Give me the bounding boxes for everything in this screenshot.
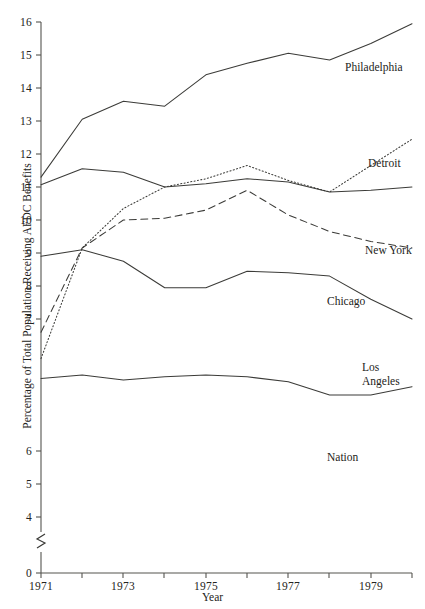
x-tick-marks <box>41 573 412 578</box>
series-line-los-angeles <box>41 250 412 319</box>
series-line-chicago <box>41 190 412 332</box>
y-tick-label-15: 15 <box>10 49 32 61</box>
series-line-nation <box>41 375 412 395</box>
y-axis <box>36 22 45 573</box>
series-label-new-york: New York <box>365 243 412 257</box>
series-label-los-angeles-line1: Los <box>362 361 379 373</box>
axis-break-symbol <box>37 534 45 548</box>
series-label-los-angeles-line2: Angeles <box>362 375 400 387</box>
series-lines <box>41 24 412 395</box>
y-tick-marks <box>36 22 41 573</box>
y-tick-label-14: 14 <box>10 82 32 94</box>
y-axis-title: Percentage of Total Population Receiving… <box>21 151 33 441</box>
y-tick-label-0: 0 <box>10 567 32 579</box>
series-label-detroit: Detroit <box>368 156 401 170</box>
series-label-nation: Nation <box>327 450 358 464</box>
series-label-philadelphia: Philadelphia <box>345 60 403 74</box>
y-tick-label-5: 5 <box>10 478 32 490</box>
series-line-philadelphia <box>41 24 412 177</box>
y-tick-label-16: 16 <box>10 16 32 28</box>
x-axis-title: Year <box>0 591 425 603</box>
series-line-detroit <box>41 139 412 358</box>
y-tick-label-6: 6 <box>10 445 32 457</box>
y-tick-label-13: 13 <box>10 115 32 127</box>
y-tick-label-4: 4 <box>10 511 32 523</box>
x-axis <box>41 573 412 578</box>
series-label-chicago: Chicago <box>327 294 365 308</box>
series-label-los-angeles: Los Angeles <box>362 360 400 388</box>
afdc-benefits-line-chart: 16 15 14 13 12 11 10 9 8 7 6 5 4 0 1971 … <box>0 0 425 609</box>
